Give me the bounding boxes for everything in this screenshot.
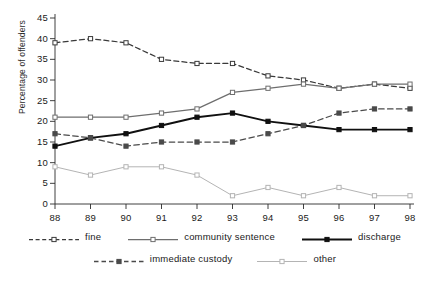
data-point-community-sentence-93 xyxy=(230,90,234,94)
data-point-immediate-custody-90 xyxy=(124,144,128,148)
data-point-discharge-96 xyxy=(337,128,341,132)
data-point-other-92 xyxy=(195,173,199,177)
data-point-discharge-91 xyxy=(159,123,163,127)
data-point-community-sentence-88 xyxy=(53,115,57,119)
legend-item-community-sentence[interactable]: community sentence xyxy=(127,231,275,242)
data-point-fine-91 xyxy=(159,57,163,61)
data-point-fine-94 xyxy=(266,74,270,78)
data-point-discharge-98 xyxy=(408,128,412,132)
series-other xyxy=(53,165,412,198)
data-point-discharge-93 xyxy=(230,111,234,115)
data-point-community-sentence-91 xyxy=(159,111,163,115)
legend-item-immediate-custody[interactable]: immediate custody xyxy=(93,253,233,264)
line-chart-figure: Percentage of offenders 0510152025303540… xyxy=(0,0,429,281)
legend-row-primary: finecommunity sentencedischarge xyxy=(0,231,429,242)
data-point-immediate-custody-98 xyxy=(408,107,412,111)
data-point-other-96 xyxy=(337,185,341,189)
data-point-discharge-94 xyxy=(266,119,270,123)
data-point-community-sentence-94 xyxy=(266,86,270,90)
series-line-other xyxy=(55,167,410,196)
legend-item-fine[interactable]: fine xyxy=(28,231,101,242)
data-point-community-sentence-98 xyxy=(408,82,412,86)
data-point-immediate-custody-95 xyxy=(301,123,305,127)
legend-label-immediate-custody: immediate custody xyxy=(150,253,233,264)
legend-label-discharge: discharge xyxy=(358,231,401,242)
data-point-fine-98 xyxy=(408,86,412,90)
data-point-immediate-custody-97 xyxy=(372,107,376,111)
data-point-other-91 xyxy=(159,165,163,169)
data-point-discharge-92 xyxy=(195,115,199,119)
data-point-discharge-97 xyxy=(372,128,376,132)
data-point-fine-92 xyxy=(195,61,199,65)
legend-item-discharge[interactable]: discharge xyxy=(301,231,401,242)
data-point-discharge-88 xyxy=(53,144,57,148)
data-point-immediate-custody-94 xyxy=(266,132,270,136)
data-point-community-sentence-96 xyxy=(337,86,341,90)
solid-open-square-key-icon xyxy=(127,231,179,242)
axis-lines xyxy=(55,14,414,204)
legend-row-secondary: immediate custodyother xyxy=(0,253,429,264)
data-point-community-sentence-92 xyxy=(195,107,199,111)
data-point-fine-93 xyxy=(230,61,234,65)
dashed-filled-square-key-icon xyxy=(93,253,145,264)
data-point-other-94 xyxy=(266,185,270,189)
data-point-immediate-custody-91 xyxy=(159,140,163,144)
data-series-layer xyxy=(53,37,412,198)
data-point-fine-90 xyxy=(124,41,128,45)
legend-item-other[interactable]: other xyxy=(256,253,336,264)
legend-label-community-sentence: community sentence xyxy=(184,231,275,242)
data-point-community-sentence-90 xyxy=(124,115,128,119)
legend-label-fine: fine xyxy=(85,231,101,242)
data-point-immediate-custody-93 xyxy=(230,140,234,144)
data-point-immediate-custody-88 xyxy=(53,132,57,136)
data-point-community-sentence-95 xyxy=(301,82,305,86)
data-point-immediate-custody-92 xyxy=(195,140,199,144)
data-point-other-98 xyxy=(408,194,412,198)
data-point-fine-88 xyxy=(53,41,57,45)
solid-filled-square-key-icon xyxy=(301,231,353,242)
data-point-fine-89 xyxy=(88,37,92,41)
data-point-other-97 xyxy=(372,194,376,198)
data-point-other-90 xyxy=(124,165,128,169)
data-point-community-sentence-89 xyxy=(88,115,92,119)
data-point-other-89 xyxy=(88,173,92,177)
legend-label-other: other xyxy=(313,253,336,264)
chart-legend: finecommunity sentencedischarge immediat… xyxy=(0,231,429,277)
data-point-immediate-custody-89 xyxy=(88,136,92,140)
data-point-community-sentence-97 xyxy=(372,82,376,86)
dashed-open-square-key-icon xyxy=(28,231,80,242)
data-point-fine-95 xyxy=(301,78,305,82)
series-fine xyxy=(53,37,412,91)
light-solid-open-square-key-icon xyxy=(256,253,308,264)
data-point-immediate-custody-96 xyxy=(337,111,341,115)
data-point-other-95 xyxy=(301,194,305,198)
data-point-other-88 xyxy=(53,165,57,169)
data-point-discharge-90 xyxy=(124,132,128,136)
data-point-other-93 xyxy=(230,194,234,198)
